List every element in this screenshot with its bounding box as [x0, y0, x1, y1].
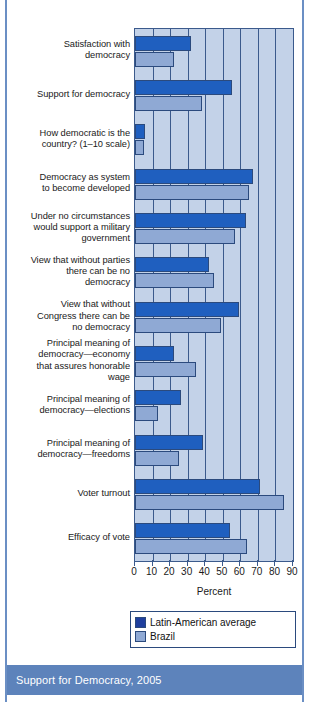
- category-label-line: government: [12, 233, 130, 244]
- legend-item-brazil: Brazil: [135, 629, 291, 643]
- bar: [135, 302, 239, 317]
- category-label: Principal meaning ofdemocracy—freedoms: [12, 438, 130, 460]
- bar: [135, 318, 221, 333]
- category-label-line: democracy—economy: [12, 349, 130, 360]
- category-label: How democratic is thecountry? (1–10 scal…: [12, 128, 130, 150]
- bar: [135, 273, 214, 288]
- chart-figure: Satisfaction withdemocracySupport for de…: [0, 0, 309, 702]
- category-label-line: that assures honorable: [12, 361, 130, 372]
- bar-group: [135, 118, 293, 162]
- category-label: Principal meaning ofdemocracy—elections: [12, 394, 130, 416]
- bar: [135, 185, 249, 200]
- category-label: Principal meaning ofdemocracy—economytha…: [12, 338, 130, 383]
- category-label-line: Congress there can be: [12, 311, 130, 322]
- category-label-line: democracy—elections: [12, 405, 130, 416]
- category-label: Satisfaction withdemocracy: [12, 39, 130, 61]
- bar: [135, 213, 246, 228]
- chart-legend: Latin-American average Brazil: [130, 611, 296, 648]
- category-label-column: Satisfaction withdemocracySupport for de…: [12, 28, 130, 560]
- category-label-line: democracy: [12, 50, 130, 61]
- x-axis-tick-labels: 0102030405060708090: [120, 566, 306, 580]
- category-label: Under no circumstanceswould support a mi…: [12, 211, 130, 245]
- bar-group: [135, 162, 293, 206]
- bar-group: [135, 384, 293, 428]
- category-label-line: would support a military: [12, 222, 130, 233]
- bar: [135, 140, 144, 155]
- bar: [135, 539, 247, 554]
- category-label: View that without partiesthere can be no…: [12, 255, 130, 289]
- category-label-line: country? (1–10 scale): [12, 139, 130, 150]
- bar: [135, 523, 230, 538]
- category-label-line: democracy: [12, 277, 130, 288]
- category-label-line: Voter turnout: [12, 488, 130, 499]
- bar-group: [135, 472, 293, 516]
- bar-group: [135, 339, 293, 383]
- bar-group: [135, 73, 293, 117]
- category-label-line: democracy—freedoms: [12, 449, 130, 460]
- bar: [135, 479, 260, 494]
- category-label-line: View that without parties: [12, 255, 130, 266]
- bar-group: [135, 295, 293, 339]
- bar: [135, 52, 174, 67]
- category-label: Democracy as systemto become developed: [12, 172, 130, 194]
- bar: [135, 451, 179, 466]
- bar: [135, 96, 202, 111]
- category-label-line: Principal meaning of: [12, 338, 130, 349]
- x-axis-title: Percent: [134, 586, 294, 597]
- category-label-line: Efficacy of vote: [12, 532, 130, 543]
- bar: [135, 80, 232, 95]
- category-label-line: Democracy as system: [12, 172, 130, 183]
- gridline-90: [293, 29, 294, 561]
- bar: [135, 257, 209, 272]
- plot-wrapper: Satisfaction withdemocracySupport for de…: [0, 0, 309, 600]
- category-label-line: to become developed: [12, 183, 130, 194]
- bar: [135, 495, 284, 510]
- category-label: Support for democracy: [12, 89, 130, 100]
- bar-group: [135, 206, 293, 250]
- bar: [135, 362, 196, 377]
- category-label-line: View that without: [12, 299, 130, 310]
- legend-swatch-icon: [135, 617, 146, 628]
- bar: [135, 346, 174, 361]
- plot-area: [134, 28, 294, 562]
- bar-group: [135, 428, 293, 472]
- x-tick-label-90: 90: [282, 566, 302, 577]
- caption-text: Support for Democracy, 2005: [7, 674, 162, 686]
- bar: [135, 229, 235, 244]
- category-label: Voter turnout: [12, 488, 130, 499]
- bar-group: [135, 517, 293, 561]
- bar: [135, 435, 203, 450]
- category-label-line: wage: [12, 372, 130, 383]
- category-label-line: Support for democracy: [12, 89, 130, 100]
- legend-item-latin-american-average: Latin-American average: [135, 615, 291, 629]
- bar: [135, 406, 158, 421]
- category-label: Efficacy of vote: [12, 532, 130, 543]
- bar: [135, 169, 253, 184]
- category-label: View that withoutCongress there can beno…: [12, 299, 130, 333]
- bar-group: [135, 29, 293, 73]
- legend-swatch-icon: [135, 631, 146, 642]
- bar: [135, 124, 145, 139]
- category-label-line: Principal meaning of: [12, 438, 130, 449]
- bar-group: [135, 251, 293, 295]
- caption-bar: Support for Democracy, 2005: [7, 665, 302, 695]
- category-label-line: no democracy: [12, 322, 130, 333]
- bar: [135, 36, 191, 51]
- category-label-line: How democratic is the: [12, 128, 130, 139]
- category-label-line: there can be no: [12, 266, 130, 277]
- category-label-line: Under no circumstances: [12, 211, 130, 222]
- legend-label: Latin-American average: [150, 617, 256, 628]
- bar: [135, 390, 181, 405]
- category-label-line: Satisfaction with: [12, 39, 130, 50]
- legend-label: Brazil: [150, 631, 175, 642]
- category-label-line: Principal meaning of: [12, 394, 130, 405]
